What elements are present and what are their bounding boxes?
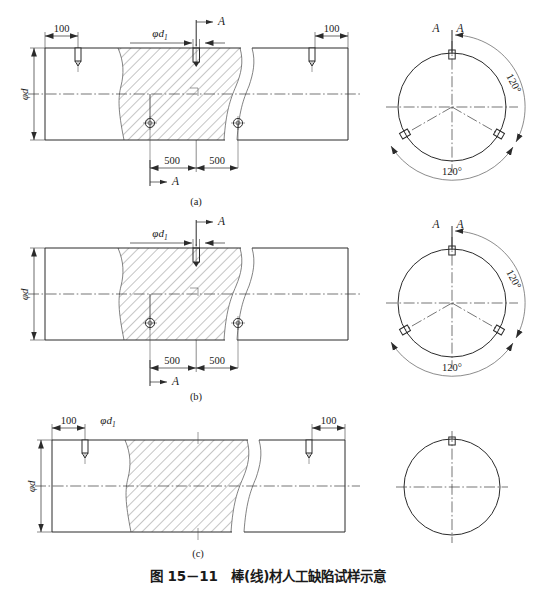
panel-a-section-letter-top: A [217,15,226,27]
panel-c-sublabel: (c) [192,548,204,560]
panel-a-spacing-right-text: 500 [209,155,225,166]
panel-a-section-radial-left [405,107,452,134]
panel-b-angle-bottom-text: 120° [442,362,462,373]
panel-b-section-marker-top: A [196,215,226,246]
panel-b-section-letter-bottom: A [171,375,180,387]
panel-c-notch-right [306,440,312,464]
panel-a-section-letter-bottom: A [171,175,180,187]
panel-a-end-dim-right: 100 [315,23,348,48]
panel-c-end-dim-right: 100 [312,415,345,440]
panel-a-section-marker-top: A [196,15,226,46]
panel-a-section-mark-right: A [455,22,464,34]
panel-a-notch-diameter-dim: φd1 [130,27,225,48]
panel-a-end-dim-right-text: 100 [324,23,340,34]
panel-b-spacing-left-text: 500 [164,355,180,366]
panel-b-spacing-right-text: 500 [209,355,225,366]
panel-c-notch-diameter-label: φd1 [100,414,115,429]
panel-b-angle-right-text: 120° [504,268,523,291]
panel-a-angle-right-text: 120° [504,72,523,95]
panel-a-section-mark-left: A [431,22,440,34]
panel-b-section-mark-right: A [455,218,464,230]
panel-b-section-radial-right [452,303,499,330]
panel-b-spacing-dims: 500 500 [150,340,238,372]
panel-a-spacing-left-text: 500 [164,155,180,166]
panel-a-notch-diameter-label: φd1 [152,27,167,42]
figure-caption: 图 15－11 棒(线)材人工缺陷试样示意 [150,568,387,584]
panel-b-section-mark-left: A [431,218,440,230]
panel-a-end-dim-left: 100 [45,23,78,48]
panel-c-notch-left [82,440,88,464]
panel-b-section-letter-top: A [217,215,226,227]
panel-a-spacing-dims: 500 500 [150,140,238,172]
panel-b: φd φd1 A A [18,215,362,403]
technical-drawing-canvas: φd 100 100 [0,0,537,590]
panel-b-section-radial-left [405,303,452,330]
panel-b-bar-diameter-label: φd [18,288,30,300]
panel-c-end-dim-right-text: 100 [321,415,337,426]
panel-a-notch-left [75,48,81,72]
panel-a-notch-right [309,48,315,72]
panel-a-sublabel: (a) [190,196,202,208]
panel-c: φd 100 100 φd1 ( [25,414,360,560]
panel-c-section-view [396,431,508,543]
panel-b-notch-diameter-dim: φd1 [130,227,225,248]
panel-b-sublabel: (b) [190,391,203,403]
panel-c-end-dim-left: 100 [52,415,85,440]
panel-b-notch-diameter-label: φd1 [152,227,167,242]
panel-a: φd 100 100 [18,15,362,208]
panel-a-section-view: A A 120° 120° [386,22,525,180]
panel-a-bar-diameter-label: φd [18,88,30,100]
panel-b-section-view: A A 120° 120° [386,218,525,376]
panel-c-bar-diameter-label: φd [25,480,37,492]
panel-a-end-dim-left-text: 100 [54,23,70,34]
panel-a-angle-bottom-text: 120° [442,166,462,177]
panel-c-end-dim-left-text: 100 [61,415,77,426]
figure-root: φd 100 100 [0,0,537,590]
panel-a-section-radial-right [452,107,499,134]
